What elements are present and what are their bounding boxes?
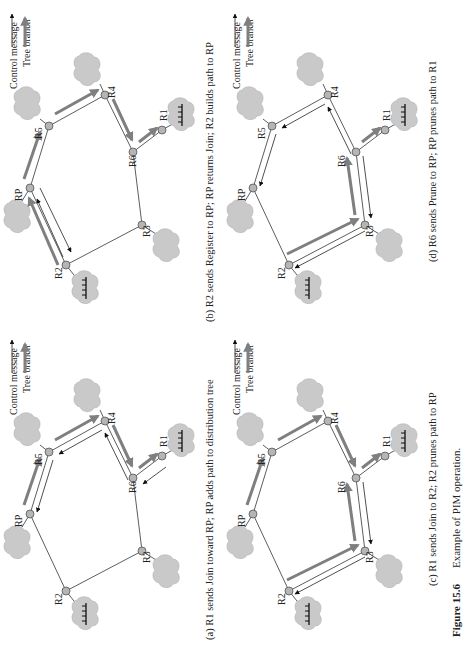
node-label-r6: R6	[336, 481, 347, 493]
node-label-r2: R2	[53, 267, 64, 279]
legend-a: Control message Tree branch	[8, 340, 32, 415]
node-label-r1: R1	[158, 109, 169, 121]
legend-control-message-label: Control message	[8, 348, 19, 415]
node-label-r5: R5	[33, 127, 44, 139]
node-label-r2: R2	[276, 267, 287, 279]
node-label-r3: R3	[141, 225, 152, 237]
figure-title: Example of PIM operation.	[450, 447, 462, 568]
caption-panel-b: (b) R2 sends Register to RP; RP returns …	[204, 42, 216, 322]
node-label-rp: RP	[236, 514, 247, 527]
node-label-r3: R3	[364, 551, 375, 563]
node-label-rp: RP	[236, 188, 247, 201]
figure-number: Figure 15.6	[450, 584, 462, 637]
node-label-r4: R4	[106, 412, 117, 424]
node-label-r5: R5	[33, 453, 44, 465]
node-label-r5: R5	[256, 453, 267, 465]
panel-b	[4, 53, 194, 304]
legend-b: Control message Tree branch	[8, 14, 32, 89]
caption-panel-a: (a) R1 sends Join toward RP; RP adds pat…	[204, 379, 216, 640]
panel-c	[227, 379, 417, 630]
node-label-r5: R5	[256, 127, 267, 139]
legend-d: Control message Tree branch	[231, 14, 255, 89]
pim-figure: RP R2 R3 R6 R5 R4 R1 RP R2 R3 R6 R5 R4 R…	[0, 0, 468, 648]
node-label-r4: R4	[329, 86, 340, 98]
panel-a	[4, 379, 194, 630]
node-label-r4: R4	[329, 412, 340, 424]
node-label-r3: R3	[364, 225, 375, 237]
node-label-r6: R6	[127, 155, 138, 167]
node-label-r1: R1	[381, 435, 392, 447]
node-label-r3: R3	[141, 551, 152, 563]
caption-panel-d: (d) R6 sends Prune to RP; RP prunes path…	[427, 61, 439, 262]
caption-panel-c: (c) R1 sends Join to R2; R2 prunes path …	[427, 392, 439, 586]
legend-control-message-label: Control message	[231, 348, 242, 415]
legend-control-message-label: Control message	[8, 22, 19, 89]
node-label-r1: R1	[381, 109, 392, 121]
legend-control-message-label: Control message	[231, 22, 242, 89]
node-label-r1: R1	[158, 435, 169, 447]
panel-d	[227, 53, 417, 304]
node-label-r4: R4	[106, 86, 117, 98]
legend-c: Control message Tree branch	[231, 340, 255, 415]
node-label-rp: RP	[13, 514, 24, 527]
node-label-r2: R2	[276, 593, 287, 605]
node-label-r2: R2	[53, 593, 64, 605]
node-label-r6: R6	[336, 155, 347, 167]
node-label-rp: RP	[13, 188, 24, 201]
node-label-r6: R6	[127, 481, 138, 493]
